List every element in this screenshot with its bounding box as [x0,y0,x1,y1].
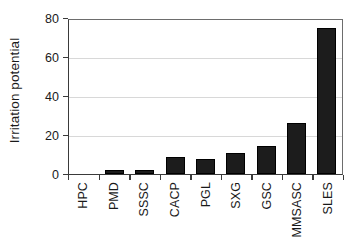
x-tick-mark-origin [68,175,69,180]
x-label-slot: HPC [68,182,99,248]
x-label-slot: SSSC [129,182,160,248]
plot-area [68,19,343,175]
bar-slot [69,20,99,174]
x-label-slot: SXG [221,182,252,248]
y-tick-label-0: 0 [19,168,59,182]
bars-layer [69,20,342,174]
bar-slot [221,20,251,174]
y-tick-label-40: 40 [19,90,59,104]
x-tick-mark-8 [343,175,344,180]
x-tick-label-hpc: HPC [76,182,90,209]
x-tick-mark-4 [221,175,222,180]
bar-gsc[interactable] [257,146,276,174]
x-axis-labels: HPCPMDSSSCCACPPGLSXGGSCMMSASCSLES [68,182,343,248]
bar-slot [160,20,190,174]
x-label-slot: GSC [251,182,282,248]
x-label-slot: MMSASC [282,182,313,248]
bar-slot [99,20,129,174]
x-tick-mark-3 [190,175,191,180]
y-tick-label-20: 20 [19,129,59,143]
bar-sxg[interactable] [226,153,245,174]
bar-sles[interactable] [317,28,336,174]
bar-slot [130,20,160,174]
bar-slot [251,20,281,174]
x-tick-label-pgl: PGL [199,182,213,207]
bar-slot [281,20,311,174]
x-tick-label-gsc: GSC [260,182,274,209]
bar-slot [312,20,342,174]
x-tick-mark-2 [160,175,161,180]
bar-cacp[interactable] [166,157,185,174]
x-label-slot: SLES [313,182,344,248]
x-tick-label-sles: SLES [321,182,335,214]
x-tick-label-cacp: CACP [168,182,182,217]
bar-pgl[interactable] [196,159,215,174]
y-tick-label-80: 80 [19,12,59,26]
bar-chart-figure: Irritation potential 0 20 40 60 80 HPCPM… [0,0,358,249]
x-label-slot: PMD [99,182,130,248]
bar-pmd[interactable] [105,170,124,174]
x-tick-label-pmd: PMD [107,182,121,210]
bar-sssc[interactable] [135,170,154,174]
x-tick-mark-0 [99,175,100,180]
x-tick-label-sxg: SXG [229,182,243,209]
bar-slot [190,20,220,174]
x-tick-label-mmsasc: MMSASC [290,182,304,237]
x-tick-mark-1 [129,175,130,180]
x-tick-mark-6 [282,175,283,180]
x-label-slot: PGL [190,182,221,248]
x-tick-mark-7 [312,175,313,180]
x-tick-label-sssc: SSSC [137,182,151,216]
x-tick-mark-5 [251,175,252,180]
y-tick-label-60: 60 [19,51,59,65]
bar-mmsasc[interactable] [287,123,306,174]
x-label-slot: CACP [160,182,191,248]
